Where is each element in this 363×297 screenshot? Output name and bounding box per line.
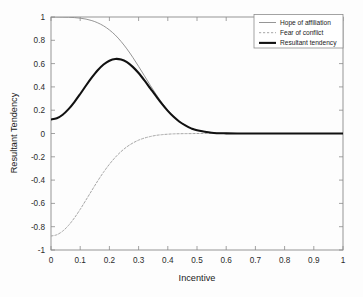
resultant-tendency-chart: 00.10.20.30.40.50.60.70.80.91 10.80.60.4…	[0, 0, 363, 297]
y-tick-label: -0.2	[31, 153, 46, 162]
x-tick-label: 0.9	[308, 256, 320, 265]
x-tick-label: 0.4	[162, 256, 174, 265]
x-tick-label: 0.3	[133, 256, 145, 265]
x-tick-label: 0.7	[250, 256, 262, 265]
x-tick-label: 0.2	[104, 256, 116, 265]
y-tick-label: 1	[40, 13, 45, 22]
x-tick-label: 0	[49, 256, 54, 265]
x-tick-label: 1	[341, 256, 346, 265]
legend-label-0: Hope of affiliation	[280, 19, 331, 27]
x-tick-label: 0.5	[191, 256, 203, 265]
x-tick-label: 0.1	[75, 256, 87, 265]
x-axis-label: Incentive	[179, 273, 216, 283]
y-tick-label: -1	[38, 246, 46, 255]
y-tick-label: 0.4	[34, 83, 46, 92]
y-tick-label: 0	[40, 130, 45, 139]
figure-container: 00.10.20.30.40.50.60.70.80.91 10.80.60.4…	[0, 0, 363, 297]
x-tick-label: 0.6	[221, 256, 233, 265]
chart-legend: Hope of affiliationFear of conflictResul…	[254, 15, 343, 49]
y-tick-label: 0.6	[34, 60, 46, 69]
y-tick-label: -0.6	[31, 199, 46, 208]
y-tick-label: 0.8	[34, 36, 46, 45]
y-tick-label: -0.4	[31, 176, 46, 185]
y-axis-label: Resultant Tendency	[9, 92, 19, 173]
legend-label-2: Resultant tendency	[280, 39, 337, 47]
x-tick-label: 0.8	[279, 256, 291, 265]
legend-label-1: Fear of conflict	[280, 29, 323, 36]
y-tick-label: 0.2	[34, 106, 46, 115]
y-tick-label: -0.8	[31, 223, 46, 232]
